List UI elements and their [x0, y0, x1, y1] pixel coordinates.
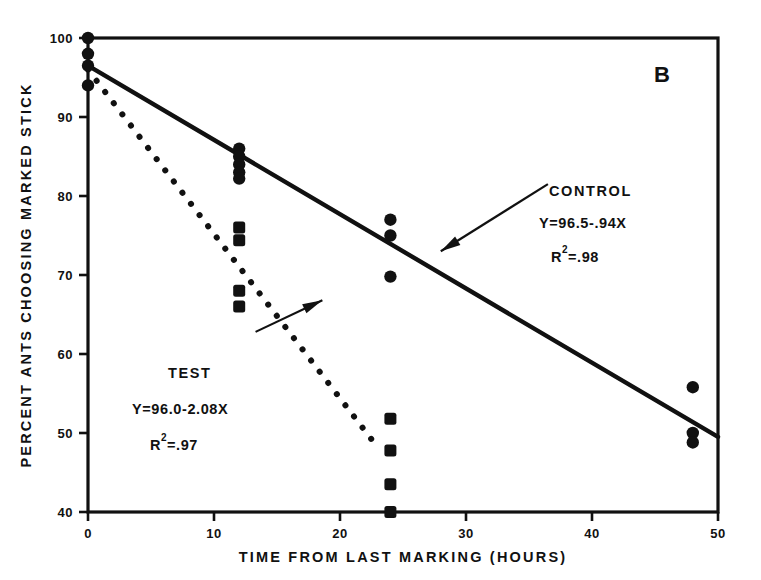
- annotation-test: TEST Y=96.0-2.08X R 2 =.97: [132, 365, 228, 453]
- data-point-test: [233, 222, 245, 234]
- data-point-control: [82, 59, 94, 71]
- annotation-control-rsquared: R 2 =.98: [551, 244, 599, 265]
- y-tick-label-80: 80: [58, 189, 73, 204]
- regression-lines: [88, 66, 718, 440]
- figure-panel-b: 405060708090100 01020304050 TIME FROM LA…: [0, 0, 761, 580]
- y-tick-label-50: 50: [58, 426, 73, 441]
- y-tick-label-40: 40: [58, 505, 73, 520]
- fit-line-test: [88, 70, 372, 440]
- annotation-test-rsquared-base: R: [150, 437, 161, 453]
- pointer-arrowhead-test: [302, 300, 322, 313]
- x-tick-label-0: 0: [84, 526, 92, 541]
- annotation-control: CONTROL Y=96.5-.94X R 2 =.98: [539, 183, 632, 265]
- annotation-control-rsquared-base: R: [551, 249, 562, 265]
- data-point-test: [384, 478, 396, 490]
- data-point-control: [384, 214, 396, 226]
- annotation-control-rsquared-value: =.98: [568, 249, 599, 265]
- annotation-control-equation: Y=96.5-.94X: [539, 215, 627, 231]
- x-tick-label-30: 30: [458, 526, 473, 541]
- data-point-test: [233, 285, 245, 297]
- data-point-control: [687, 381, 699, 393]
- y-axis-title: PERCENT ANTS CHOOSING MARKED STICK: [18, 82, 34, 467]
- data-point-test: [384, 444, 396, 456]
- annotation-test-rsquared-value: =.97: [167, 437, 198, 453]
- data-point-control: [82, 79, 94, 91]
- y-tick-label-90: 90: [58, 110, 73, 125]
- data-point-control: [82, 48, 94, 60]
- data-point-test: [384, 506, 396, 518]
- data-point-control: [384, 270, 396, 282]
- x-tick-label-20: 20: [332, 526, 347, 541]
- x-tick-label-50: 50: [710, 526, 725, 541]
- x-axis-title: TIME FROM LAST MARKING (HOURS): [239, 549, 568, 565]
- y-tick-label-70: 70: [58, 268, 73, 283]
- annotation-test-equation: Y=96.0-2.08X: [132, 401, 228, 417]
- data-point-test: [233, 301, 245, 313]
- annotation-test-rsquared: R 2 =.97: [150, 432, 198, 453]
- y-axis-tick-labels: 405060708090100: [50, 31, 73, 520]
- data-point-control: [233, 172, 245, 184]
- annotation-test-title: TEST: [168, 365, 211, 381]
- fit-line-control: [88, 66, 718, 437]
- x-axis-tick-labels: 01020304050: [84, 526, 726, 541]
- y-tick-label-60: 60: [58, 347, 73, 362]
- panel-label: B: [654, 62, 670, 87]
- data-point-control: [384, 229, 396, 241]
- data-point-control: [687, 436, 699, 448]
- x-tick-label-40: 40: [584, 526, 599, 541]
- scatter-chart: 405060708090100 01020304050 TIME FROM LA…: [0, 0, 761, 580]
- data-point-control: [82, 32, 94, 44]
- x-tick-label-10: 10: [206, 526, 221, 541]
- data-point-test: [233, 234, 245, 246]
- pointer-arrowhead-control: [441, 236, 461, 251]
- y-tick-label-100: 100: [50, 31, 73, 46]
- annotation-control-title: CONTROL: [549, 183, 632, 199]
- data-point-test: [384, 413, 396, 425]
